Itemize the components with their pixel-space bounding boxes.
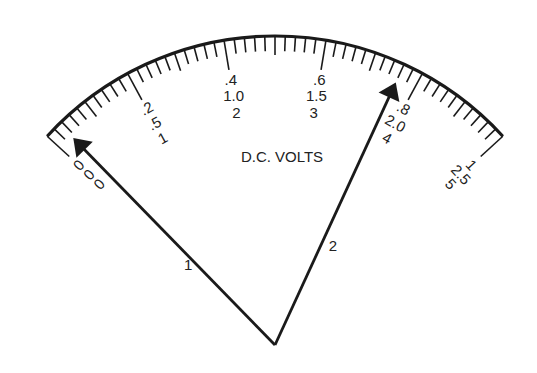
minor-tick xyxy=(165,56,170,70)
pointers: 12 xyxy=(73,82,399,345)
minor-tick xyxy=(464,108,474,120)
major-tick xyxy=(47,136,69,156)
minor-tick xyxy=(101,89,109,101)
minor-tick xyxy=(304,38,305,53)
minor-tick xyxy=(380,56,385,70)
minor-tick xyxy=(85,102,97,117)
pointer-label: 2 xyxy=(329,237,337,254)
major-tick xyxy=(481,136,503,156)
scale-labels: 000.2.51.41.02.61.53.82.0412.55 xyxy=(69,71,480,193)
minor-tick xyxy=(155,60,161,74)
minor-tick xyxy=(194,47,198,61)
minor-tick xyxy=(137,69,144,82)
major-tick xyxy=(224,40,229,70)
minor-tick xyxy=(255,37,256,52)
scale-label: 0 xyxy=(90,175,108,193)
meter-title: D.C. VOLTS xyxy=(241,148,323,165)
minor-tick xyxy=(454,102,466,117)
minor-tick xyxy=(398,64,404,78)
pointer-1: 1 xyxy=(73,138,275,345)
minor-tick xyxy=(333,42,336,57)
pointer-shaft xyxy=(275,93,391,345)
pointer-2: 2 xyxy=(275,82,399,345)
minor-tick xyxy=(62,122,72,133)
scale-label: .6 xyxy=(313,71,326,88)
minor-tick xyxy=(214,42,217,57)
scale-label: 3 xyxy=(309,104,317,121)
minor-tick xyxy=(184,50,188,64)
minor-tick xyxy=(69,115,79,126)
minor-tick xyxy=(314,39,316,54)
minor-tick xyxy=(389,60,395,74)
minor-tick xyxy=(294,37,295,52)
minor-tick xyxy=(407,69,414,82)
major-tick xyxy=(128,73,142,99)
minor-tick xyxy=(369,53,375,71)
minor-tick xyxy=(361,50,365,64)
minor-tick xyxy=(471,115,481,126)
minor-tick xyxy=(93,95,102,107)
dc-volts-meter-diagram: 000.2.51.41.02.61.53.82.0412.55 D.C. VOL… xyxy=(0,0,537,373)
minor-tick xyxy=(146,64,152,78)
scale-label: 2 xyxy=(232,104,240,121)
scale-label: .4 xyxy=(225,71,238,88)
minor-tick xyxy=(485,129,496,139)
minor-tick xyxy=(352,47,356,61)
minor-tick xyxy=(432,84,440,97)
pointer-shaft xyxy=(82,147,275,345)
minor-tick xyxy=(54,129,65,139)
scale-label: 4 xyxy=(380,129,395,148)
minor-tick xyxy=(440,89,448,101)
pointer-label: 1 xyxy=(184,256,192,273)
major-tick xyxy=(408,73,422,99)
minor-tick xyxy=(478,122,488,133)
minor-tick xyxy=(244,38,245,53)
minor-tick xyxy=(204,44,207,59)
scale-label: 1.0 xyxy=(223,87,244,104)
minor-tick xyxy=(174,53,180,71)
minor-tick xyxy=(343,44,346,59)
minor-tick xyxy=(234,39,236,54)
minor-tick xyxy=(77,108,87,120)
minor-tick xyxy=(110,84,118,97)
major-tick xyxy=(321,40,326,70)
scale-label: 1 xyxy=(155,129,170,148)
minor-tick xyxy=(119,78,127,91)
scale-label: 5 xyxy=(442,175,460,193)
scale-ticks xyxy=(47,36,503,157)
minor-tick xyxy=(424,78,432,91)
minor-tick xyxy=(448,95,457,107)
scale-label: 1.5 xyxy=(306,87,327,104)
